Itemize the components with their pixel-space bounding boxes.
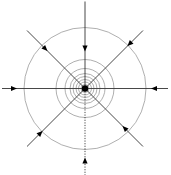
arrow-icon [82,46,87,52]
field-line-bottom-right [85,89,143,147]
field-line-bottom-left [27,89,85,147]
arrow-icon [82,158,87,164]
arrow-icon [11,86,17,91]
sink-point [82,85,88,91]
arrow-icon [151,86,157,91]
field-line-top-left [27,31,85,89]
radial-field-diagram [0,0,171,175]
field-line-top-right [85,31,143,89]
